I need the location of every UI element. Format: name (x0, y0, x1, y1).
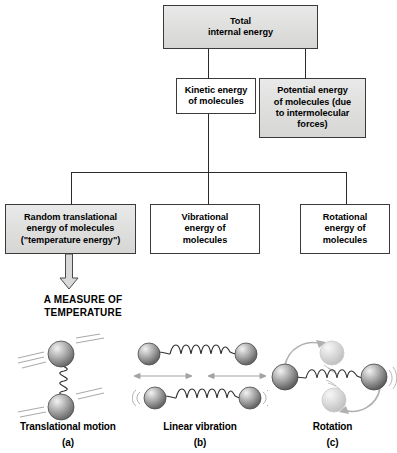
box-potential-energy: Potential energy of molecules (due to in… (259, 78, 366, 138)
box-vibrational-energy: Vibrational energy of molecules (150, 204, 260, 254)
box-total-internal-energy: Total internal energy (163, 5, 318, 49)
diagram-canvas: Total internal energy Kinetic energy of … (0, 0, 397, 453)
connector-kinetic-down (208, 114, 209, 173)
connector-total-to-potential (305, 49, 306, 79)
box-kinetic-energy: Kinetic energy of molecules (176, 78, 256, 114)
connector-distribution-bar (71, 172, 347, 173)
connector-drop-random (71, 172, 72, 205)
connector-drop-rotational (346, 172, 347, 205)
caption-title-c: Rotation (268, 421, 397, 432)
caption-title-b: Linear vibration (132, 421, 268, 432)
two-spheres-spring-rotating-icon (268, 332, 397, 422)
caption-letter-a: (a) (4, 437, 132, 448)
two-spheres-spring-horizontal-icon (132, 332, 268, 422)
connector-drop-vibrational (208, 172, 209, 205)
caption-letter-c: (c) (268, 437, 397, 448)
two-spheres-spring-vertical-icon (4, 332, 132, 422)
down-block-arrow-icon (59, 254, 79, 290)
illustration-rotation: Rotation (c) (268, 332, 397, 453)
illustration-linear-vibration: Linear vibration (b) (132, 332, 268, 453)
caption-title-a: Translational motion (4, 421, 132, 432)
caption-letter-b: (b) (132, 437, 268, 448)
box-rotational-energy: Rotational energy of molecules (300, 204, 390, 254)
illustration-translational-motion: Translational motion (a) (4, 332, 132, 453)
measure-of-temperature-label: A MEASURE OF TEMPERATURE (18, 294, 148, 319)
box-random-translational-energy: Random translational energy of molecules… (5, 204, 136, 254)
connector-total-to-kinetic (208, 49, 209, 79)
